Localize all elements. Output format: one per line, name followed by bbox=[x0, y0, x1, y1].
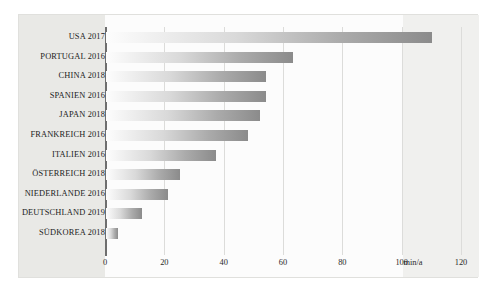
category-label: SPANIEN 2016 bbox=[0, 91, 105, 100]
category-label: ÖSTERREICH 2018 bbox=[0, 169, 105, 178]
bar bbox=[106, 130, 248, 141]
tick-label-80: 80 bbox=[327, 258, 357, 267]
bar bbox=[106, 32, 432, 43]
bar bbox=[106, 91, 266, 102]
tick-label-40: 40 bbox=[209, 258, 239, 267]
gridline-80 bbox=[342, 27, 343, 255]
axis-unit-label: min/a bbox=[403, 258, 422, 267]
bar-chart: USA 2017PORTUGAL 2016CHINA 2018SPANIEN 2… bbox=[0, 0, 492, 292]
category-label: ITALIEN 2016 bbox=[0, 150, 105, 159]
bar bbox=[106, 71, 266, 82]
bar bbox=[106, 52, 293, 63]
bar bbox=[106, 110, 260, 121]
gridline-120 bbox=[461, 27, 462, 255]
tick-label-20: 20 bbox=[149, 258, 179, 267]
bar bbox=[106, 169, 180, 180]
category-label: FRANKREICH 2016 bbox=[0, 130, 105, 139]
category-label: PORTUGAL 2016 bbox=[0, 52, 105, 61]
plot-area: USA 2017PORTUGAL 2016CHINA 2018SPANIEN 2… bbox=[19, 15, 479, 279]
category-label: CHINA 2018 bbox=[0, 71, 105, 80]
chart-frame: USA 2017PORTUGAL 2016CHINA 2018SPANIEN 2… bbox=[18, 14, 478, 278]
bar bbox=[106, 189, 168, 200]
category-label: NIEDERLANDE 2016 bbox=[0, 189, 105, 198]
tick-label-0: 0 bbox=[90, 258, 120, 267]
tick-label-60: 60 bbox=[268, 258, 298, 267]
category-label: JAPAN 2018 bbox=[0, 110, 105, 119]
category-label: USA 2017 bbox=[0, 32, 105, 41]
bar bbox=[106, 228, 118, 239]
bar bbox=[106, 150, 216, 161]
bar bbox=[106, 208, 142, 219]
category-label: DEUTSCHLAND 2019 bbox=[0, 208, 105, 217]
tick-label-120: 120 bbox=[446, 258, 476, 267]
gridline-100 bbox=[402, 27, 403, 255]
category-label: SÜDKOREA 2018 bbox=[0, 228, 105, 237]
